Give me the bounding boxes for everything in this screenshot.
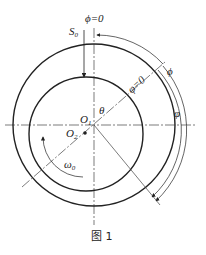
omega0-arc xyxy=(43,137,83,177)
o1-label: O1 xyxy=(80,113,91,127)
figure-caption: 图 1 xyxy=(91,230,113,243)
phi-zero-label: ϕ=0 xyxy=(85,12,104,24)
s0-label: S0 xyxy=(69,25,79,39)
varphi-radial-line xyxy=(94,125,160,205)
phi-label: ϕ xyxy=(167,65,173,77)
o2-point xyxy=(83,131,87,135)
varphi-zero-label: φ=0 xyxy=(125,73,148,95)
varphi-arc xyxy=(156,66,187,201)
diagram: ϕ=0 S0 φ=0 ϕ φ θ O1 O2 ω0 图 1 xyxy=(0,0,206,255)
phi-arc xyxy=(97,35,163,64)
varphi-label: φ xyxy=(174,107,180,119)
o2-label: O2 xyxy=(66,127,78,141)
omega0-label: ω0 xyxy=(64,158,76,172)
theta-label: θ xyxy=(99,104,105,116)
